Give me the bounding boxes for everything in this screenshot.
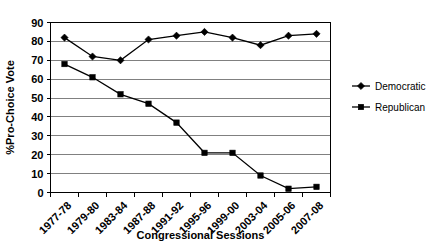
y-tick-label-70: 70	[31, 54, 43, 66]
y-axis-title: %Pro-Choice Vote	[4, 60, 16, 155]
data-point-republican-2007-08	[314, 184, 319, 189]
data-point-republican-1999-00	[230, 150, 235, 155]
pro-choice-vote-line-chart: 01020304050607080901977-781979-801983-84…	[0, 0, 446, 247]
y-tick-label-20: 20	[31, 149, 43, 161]
data-point-republican-1991-92	[174, 120, 179, 125]
data-point-republican-2003-04	[258, 173, 263, 178]
y-tick-label-0: 0	[37, 187, 43, 199]
legend-marker-square-icon	[358, 104, 363, 109]
x-axis-title: Congressional Sessions	[137, 229, 265, 241]
plot-area	[51, 23, 331, 193]
data-point-republican-1979-80	[90, 75, 95, 80]
data-point-republican-1995-96	[202, 150, 207, 155]
legend-label-democratic: Democratic	[375, 81, 426, 92]
chart-container: 01020304050607080901977-781979-801983-84…	[0, 0, 446, 247]
data-point-republican-2005-06	[286, 186, 291, 191]
data-point-republican-1977-78	[62, 61, 67, 66]
y-tick-label-80: 80	[31, 35, 43, 47]
y-tick-label-40: 40	[31, 111, 43, 123]
legend-label-republican: Republican	[375, 102, 425, 113]
y-tick-label-10: 10	[31, 168, 43, 180]
data-point-republican-1987-88	[146, 101, 151, 106]
data-point-republican-1983-84	[118, 92, 123, 97]
y-tick-label-30: 30	[31, 130, 43, 142]
y-tick-label-50: 50	[31, 92, 43, 104]
y-tick-label-90: 90	[31, 17, 43, 29]
y-tick-label-60: 60	[31, 73, 43, 85]
